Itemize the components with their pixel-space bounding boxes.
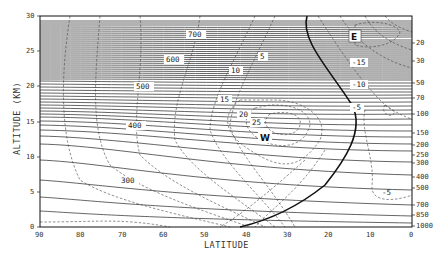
svg-text:300: 300 — [121, 176, 135, 185]
svg-text:25: 25 — [252, 118, 261, 127]
svg-text:150: 150 — [416, 129, 429, 137]
y-axis-right: 20 30 50 70 100 150 200 250 300 400 500 … — [412, 39, 433, 230]
svg-text:400: 400 — [416, 173, 429, 181]
svg-text:10: 10 — [231, 66, 241, 75]
svg-text:30: 30 — [283, 231, 291, 239]
svg-text:70: 70 — [416, 94, 424, 102]
svg-text:300: 300 — [416, 159, 429, 167]
svg-text:50: 50 — [200, 231, 208, 239]
svg-text:25: 25 — [26, 47, 34, 55]
x-axis: 90 80 70 60 50 40 30 20 10 0 LATITUDE — [35, 231, 413, 250]
svg-text:600: 600 — [166, 55, 180, 64]
svg-text:-15: -15 — [352, 58, 366, 67]
svg-text:5: 5 — [30, 188, 34, 196]
svg-text:20: 20 — [324, 231, 332, 239]
contour-chart: 700 600 500 400 300 5 10 15 20 25 -15 -1… — [0, 0, 440, 258]
svg-text:20: 20 — [416, 39, 424, 47]
svg-text:15: 15 — [220, 95, 229, 104]
y-axis-title: ALTITUDE (KM) — [12, 82, 22, 155]
svg-text:850: 850 — [416, 211, 429, 219]
svg-text:80: 80 — [76, 231, 84, 239]
svg-text:1000: 1000 — [416, 222, 433, 230]
svg-text:700: 700 — [416, 201, 429, 209]
x-axis-title: LATITUDE — [204, 240, 249, 250]
svg-text:100: 100 — [416, 110, 429, 118]
svg-text:-5: -5 — [352, 103, 361, 112]
svg-text:40: 40 — [242, 231, 250, 239]
svg-text:70: 70 — [118, 231, 126, 239]
y-axis-left: 0 5 10 15 20 25 30 ALTITUDE (KM) — [12, 12, 40, 231]
svg-text:-5: -5 — [382, 188, 391, 197]
svg-text:200: 200 — [416, 141, 429, 149]
svg-text:10: 10 — [26, 153, 34, 161]
svg-text:400: 400 — [128, 121, 142, 130]
svg-text:30: 30 — [26, 12, 34, 20]
svg-text:60: 60 — [159, 231, 167, 239]
svg-text:20: 20 — [239, 110, 249, 119]
svg-text:500: 500 — [416, 184, 429, 192]
svg-text:90: 90 — [35, 231, 43, 239]
svg-text:700: 700 — [188, 30, 202, 39]
plot-area: 700 600 500 400 300 5 10 15 20 25 -15 -1… — [40, 16, 412, 227]
svg-text:5: 5 — [260, 52, 265, 61]
svg-text:250: 250 — [416, 151, 429, 159]
svg-text:15: 15 — [26, 118, 34, 126]
svg-text:0: 0 — [409, 231, 413, 239]
svg-text:-10: -10 — [352, 80, 366, 89]
svg-text:30: 30 — [416, 57, 424, 65]
svg-text:0: 0 — [30, 223, 34, 231]
svg-text:10: 10 — [366, 231, 374, 239]
easterly-max-label: E — [351, 32, 357, 42]
westerly-max-label: W — [260, 133, 270, 143]
svg-text:20: 20 — [26, 82, 34, 90]
svg-text:50: 50 — [416, 79, 424, 87]
svg-text:500: 500 — [136, 82, 150, 91]
